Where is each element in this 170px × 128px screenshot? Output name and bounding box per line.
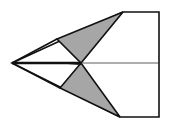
paper-airplane-diagram bbox=[0, 0, 170, 128]
